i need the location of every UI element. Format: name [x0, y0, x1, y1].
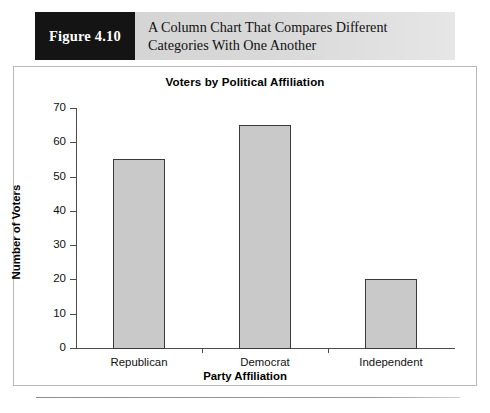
chart-title: Voters by Political Affiliation [14, 75, 476, 88]
y-axis-tick: 20 [70, 279, 76, 280]
bar [113, 159, 166, 349]
x-axis-title: Party Affiliation [14, 370, 476, 382]
x-axis-tick [202, 348, 203, 353]
x-axis-tick-label: Democrat [202, 356, 328, 368]
y-axis-tick: 70 [70, 108, 76, 109]
y-axis-tick-label: 30 [53, 238, 66, 250]
y-axis-tick-label: 40 [53, 204, 66, 216]
x-axis-tick [328, 348, 329, 353]
y-axis-tick-label: 50 [53, 170, 66, 182]
y-axis-tick-label: 60 [53, 135, 66, 147]
y-axis-tick: 40 [70, 211, 76, 212]
y-axis-title: Number of Voters [10, 172, 22, 292]
footer-divider [36, 397, 460, 398]
y-axis-tick-label: 20 [53, 272, 66, 284]
y-axis-tick: 60 [70, 142, 76, 143]
y-axis-tick: 50 [70, 177, 76, 178]
figure-caption-text: A Column Chart That Compares Different C… [135, 12, 455, 60]
x-axis-tick-label: Republican [76, 356, 202, 368]
y-axis-tick-label: 10 [53, 307, 66, 319]
y-axis-tick: 30 [70, 245, 76, 246]
y-axis-tick: 10 [70, 314, 76, 315]
y-axis-line [76, 108, 77, 349]
x-axis-tick-label: Independent [328, 356, 454, 368]
bar [239, 125, 292, 349]
figure-number-label: Figure 4.10 [35, 12, 135, 60]
y-axis-tick-label: 70 [53, 101, 66, 113]
figure-caption-banner: Figure 4.10 A Column Chart That Compares… [35, 12, 455, 60]
y-axis-tick: 0 [70, 348, 76, 349]
bar [365, 279, 418, 349]
chart-container: Voters by Political Affiliation 01020304… [13, 66, 477, 386]
y-axis-tick-label: 0 [60, 341, 66, 353]
